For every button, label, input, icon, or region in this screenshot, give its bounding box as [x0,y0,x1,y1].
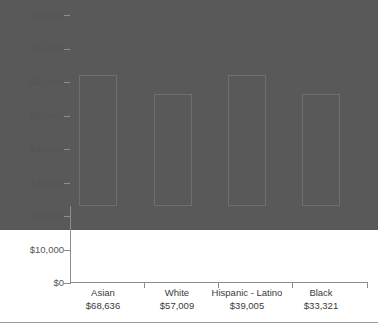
bar-black [302,94,340,206]
y-axis-tick-label: $50,000 [0,111,64,121]
y-axis-tick-label: $10,000 [0,245,64,255]
bar-white [154,94,192,206]
y-axis-tick-label: $40,000 [0,144,64,154]
y-axis-tick [64,250,70,251]
y-axis-tick-label: $20,000 [0,211,64,221]
x-axis-label-black: Black $33,321 [271,286,371,312]
bottom-divider [0,322,378,323]
y-axis-tick-label: $30,000 [0,178,64,188]
y-axis-tick-label: $60,000 [0,77,64,87]
y-axis-tick [64,216,70,217]
bar-chart: $80,000 $70,000 $60,000 $50,000 $40,000 … [0,0,378,230]
bar-group [70,15,368,206]
x-axis-category-value: $33,321 [271,299,371,312]
x-axis-line [70,282,368,283]
y-axis-tick-label: $70,000 [0,44,64,54]
x-axis-labels: Asian $68,636 White $57,009 Hispanic - L… [70,286,368,318]
y-axis-tick-labels: $80,000 $70,000 $60,000 $50,000 $40,000 … [0,0,64,331]
y-axis-tick-label: $80,000 [0,10,64,20]
bar-hispanic-latino [228,75,266,206]
y-axis-tick [64,283,70,284]
bar-asian [79,75,117,206]
plot-area [70,15,368,283]
x-axis-category-name: Black [271,286,371,299]
